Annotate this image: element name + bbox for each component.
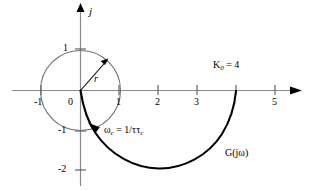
gain-value: = 4: [224, 59, 240, 70]
locus-G: G(: [225, 147, 236, 158]
locus-paren-close: ): [245, 147, 248, 158]
gain-annotation: K0 = 4: [213, 60, 239, 72]
real-tick-label-0: 0: [68, 97, 73, 107]
imaginary-axis-label: j: [89, 6, 92, 17]
radius-label: r: [94, 74, 98, 84]
real-tick-label-1: 1: [116, 97, 121, 107]
real-tick-label-minus1: -1: [34, 97, 42, 107]
real-axis: [12, 87, 302, 95]
tau-subscript: c: [140, 129, 143, 137]
omega-equals-inverse-tau: = 1/τ: [114, 124, 136, 135]
locus-label: G(jω): [225, 148, 248, 158]
real-tick-label-5: 5: [272, 97, 277, 107]
real-tick-label-3: 3: [194, 97, 199, 107]
nyquist-plot-figure: j -1 0 1 2 3 5 1 -1 -2 r K0 = 4 ωc = 1/τ…: [0, 0, 312, 191]
real-tick-label-2: 2: [155, 97, 160, 107]
locus-omega: ω: [238, 147, 245, 158]
imag-tick-label-1: 1: [63, 43, 68, 53]
corner-frequency-annotation: ωc = 1/ττc: [104, 125, 143, 137]
imag-tick-label-minus2: -2: [58, 164, 66, 174]
omega-symbol: ω: [104, 124, 111, 135]
imag-tick-label-minus1: -1: [58, 125, 66, 135]
